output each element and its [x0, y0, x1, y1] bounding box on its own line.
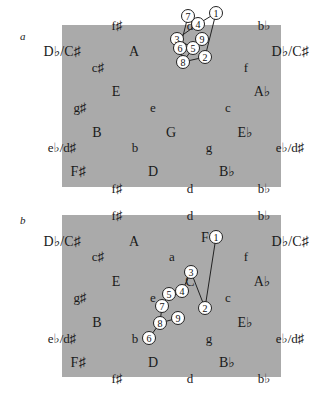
- trajectory-b: 123456789: [0, 0, 317, 399]
- svg-text:2: 2: [203, 303, 208, 314]
- svg-text:7: 7: [160, 301, 165, 312]
- trajectory-node: 8: [154, 317, 167, 330]
- trajectory-node: 7: [156, 300, 169, 313]
- trajectory-node: 1: [210, 231, 223, 244]
- svg-text:5: 5: [167, 289, 172, 300]
- svg-text:9: 9: [176, 313, 181, 324]
- svg-text:3: 3: [189, 267, 194, 278]
- svg-text:6: 6: [147, 333, 152, 344]
- trajectory-node: 5: [163, 288, 176, 301]
- svg-text:8: 8: [158, 318, 163, 329]
- trajectory-node: 3: [185, 266, 198, 279]
- trajectory-node: 2: [199, 302, 212, 315]
- trajectory-node: 9: [172, 312, 185, 325]
- trajectory-node: 6: [143, 332, 156, 345]
- svg-text:1: 1: [214, 232, 219, 243]
- trajectory-edge: [205, 237, 216, 308]
- svg-text:4: 4: [180, 286, 185, 297]
- trajectory-node: 4: [176, 285, 189, 298]
